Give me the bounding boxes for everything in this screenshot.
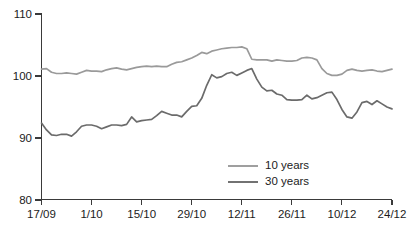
x-tick-group: 17/091/1015/1029/1012/1126/1110/1224/12 xyxy=(27,200,406,221)
x-tick-label: 12/11 xyxy=(228,208,256,220)
x-tick-label: 10/12 xyxy=(328,208,357,220)
y-tick-label: 90 xyxy=(19,132,32,144)
series-line-10-years xyxy=(42,47,393,76)
x-tick-label: 17/09 xyxy=(27,208,56,220)
y-axis: 8090100110 xyxy=(13,8,42,206)
line-chart: 8090100110 17/091/1015/1029/1012/1126/11… xyxy=(0,0,407,235)
legend-label-0: 10 years xyxy=(265,159,309,171)
chart-legend: 10 years30 years xyxy=(228,159,309,187)
y-tick-label: 100 xyxy=(13,70,32,82)
x-axis: 17/091/1015/1029/1012/1126/1110/1224/12 xyxy=(27,200,406,221)
chart-canvas: 8090100110 17/091/1015/1029/1012/1126/11… xyxy=(0,0,407,235)
y-tick-label: 110 xyxy=(14,8,32,20)
x-tick-label: 24/12 xyxy=(378,208,407,220)
x-tick-label: 29/10 xyxy=(177,208,206,220)
legend-label-1: 30 years xyxy=(265,175,309,187)
x-tick-label: 26/11 xyxy=(278,208,306,220)
series-group xyxy=(42,47,393,136)
x-tick-label: 1/10 xyxy=(80,208,102,220)
x-tick-label: 15/10 xyxy=(127,208,156,220)
series-line-30-years xyxy=(42,69,393,137)
y-tick-group: 8090100110 xyxy=(13,8,42,206)
y-tick-label: 80 xyxy=(19,194,32,206)
